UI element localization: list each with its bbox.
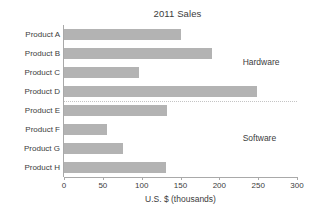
category-label: Product E	[2, 106, 60, 115]
x-tick-mark	[181, 177, 182, 180]
bar[interactable]	[64, 67, 139, 78]
bar-row	[64, 158, 297, 177]
category-label: Product H	[2, 163, 60, 172]
x-tick-mark	[297, 177, 298, 180]
category-label: Product A	[2, 30, 60, 39]
bar[interactable]	[64, 105, 167, 116]
group-annotation-hardware: Hardware	[243, 57, 280, 67]
group-annotation-software: Software	[243, 133, 277, 143]
category-axis: Product AProduct BProduct CProduct DProd…	[0, 25, 60, 177]
x-tick-label: 200	[213, 181, 226, 190]
category-label: Product D	[2, 87, 60, 96]
x-tick-label: 100	[135, 181, 148, 190]
x-tick-label: 0	[62, 181, 66, 190]
group-divider	[64, 101, 297, 102]
bar-chart: 2011 Sales Product AProduct BProduct CPr…	[0, 0, 327, 219]
x-tick-mark	[142, 177, 143, 180]
bar-row	[64, 25, 297, 44]
bar[interactable]	[64, 124, 107, 135]
chart-title: 2011 Sales	[0, 8, 327, 19]
x-tick-label: 300	[290, 181, 303, 190]
x-tick-mark	[103, 177, 104, 180]
bar[interactable]	[64, 29, 181, 40]
bar[interactable]	[64, 86, 257, 97]
bar[interactable]	[64, 162, 166, 173]
bar[interactable]	[64, 48, 212, 59]
bar-row	[64, 82, 297, 101]
category-label: Product G	[2, 144, 60, 153]
bar[interactable]	[64, 143, 123, 154]
x-tick-label: 50	[98, 181, 107, 190]
category-label: Product F	[2, 125, 60, 134]
category-label: Product B	[2, 49, 60, 58]
x-tick-label: 150	[174, 181, 187, 190]
x-tick-mark	[258, 177, 259, 180]
x-tick-mark	[219, 177, 220, 180]
x-axis-label: U.S. $ (thousands)	[64, 194, 297, 204]
bar-row	[64, 101, 297, 120]
x-tick-label: 250	[251, 181, 264, 190]
category-label: Product C	[2, 68, 60, 77]
x-tick-mark	[64, 177, 65, 180]
